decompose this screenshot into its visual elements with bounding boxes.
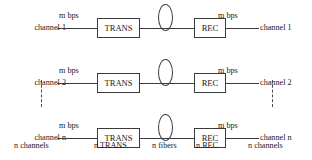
- output-rate-label: m bps: [218, 12, 238, 20]
- input-rate-label: m bps: [59, 67, 79, 75]
- caption-output-channels: n channels: [248, 142, 283, 150]
- channel-row-1: channel 1 m bps TRANS REC m bps channel …: [0, 0, 312, 46]
- input-link-line: [57, 28, 98, 29]
- channel-row-2: channel 2 m bps TRANS REC m bps channel …: [0, 55, 312, 101]
- caption-fibers: n fibers: [152, 142, 177, 150]
- output-link-line: [225, 28, 259, 29]
- receiver-block: REC: [194, 73, 226, 93]
- input-link-line: [57, 138, 98, 139]
- ellipsis-dots-left: [41, 80, 42, 107]
- caption-transmitters: n TRANS: [94, 142, 127, 150]
- fiber-loop-icon: [158, 59, 173, 86]
- input-rate-label: m bps: [59, 12, 79, 20]
- channel-output-label: channel 1: [260, 24, 292, 32]
- output-rate-label: m bps: [218, 122, 238, 130]
- receiver-block: REC: [194, 18, 226, 38]
- input-link-line: [57, 83, 98, 84]
- output-link-line: [225, 138, 259, 139]
- output-link-line: [225, 83, 259, 84]
- caption-receivers: n REC: [196, 142, 218, 150]
- fiber-system-diagram: channel 1 m bps TRANS REC m bps channel …: [0, 0, 312, 160]
- transmitter-block: TRANS: [97, 18, 140, 38]
- transmitter-block: TRANS: [97, 73, 140, 93]
- fiber-loop-icon: [158, 4, 173, 31]
- caption-input-channels: n channels: [14, 142, 49, 150]
- ellipsis-dots-right: [272, 80, 273, 107]
- fiber-loop-icon: [158, 114, 173, 141]
- input-rate-label: m bps: [59, 122, 79, 130]
- channel-output-label: channel 2: [260, 79, 292, 87]
- output-rate-label: m bps: [218, 67, 238, 75]
